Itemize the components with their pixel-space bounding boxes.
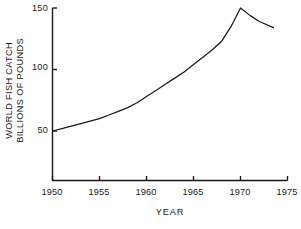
- y-tick-label-50: 50: [22, 126, 48, 135]
- data-line-world-fish-catch: [53, 8, 274, 131]
- x-tick-label-1970: 1970: [220, 188, 260, 197]
- y-tick-label-150: 150: [22, 4, 48, 13]
- x-tick-label-1975: 1975: [267, 188, 301, 197]
- x-tick-label-1955: 1955: [79, 188, 119, 197]
- y-axis-label-line-1: WORLD FISH CATCH: [5, 42, 14, 139]
- x-tick-label-1950: 1950: [32, 188, 72, 197]
- y-axis-label: WORLD FISH CATCH BILLIONS OF POUNDS: [0, 0, 30, 181]
- x-tick-label-1960: 1960: [126, 188, 166, 197]
- chart-figure: WORLD FISH CATCH BILLIONS OF POUNDS 150 …: [0, 0, 301, 229]
- y-tick-label-100: 100: [22, 63, 48, 72]
- x-tick-label-1965: 1965: [173, 188, 213, 197]
- x-axis-label: YEAR: [110, 207, 230, 217]
